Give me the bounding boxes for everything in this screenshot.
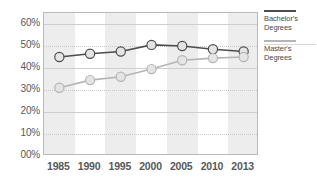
- series-layer: [44, 13, 258, 155]
- legend: Bachelor'sDegreesMaster'sDegrees: [264, 10, 316, 70]
- chart-container: 00%10%20%30%40%50%60% 198519901995200020…: [0, 0, 317, 187]
- y-axis-tick-label: 10%: [6, 128, 40, 138]
- data-point-marker: [85, 49, 94, 58]
- data-point-marker: [147, 65, 156, 74]
- legend-divider: [264, 44, 316, 45]
- y-axis: 00%10%20%30%40%50%60%: [4, 0, 40, 187]
- data-point-marker: [116, 72, 125, 81]
- data-point-marker: [55, 52, 64, 61]
- x-axis-tick-label: 2013: [223, 160, 263, 172]
- legend-label: Degrees: [264, 24, 316, 33]
- legend-label: Degrees: [264, 54, 316, 63]
- y-axis-tick-label: 50%: [6, 40, 40, 50]
- y-axis-tick-label: 00%: [6, 150, 40, 160]
- data-point-marker: [239, 52, 248, 61]
- legend-swatch: [264, 10, 296, 12]
- data-point-marker: [116, 47, 125, 56]
- plot-area: [43, 12, 258, 155]
- data-point-marker: [85, 76, 94, 85]
- y-axis-tick-label: 30%: [6, 84, 40, 94]
- y-axis-tick-label: 40%: [6, 62, 40, 72]
- legend-swatch: [264, 40, 296, 42]
- data-point-marker: [178, 56, 187, 65]
- data-point-marker: [178, 41, 187, 50]
- data-point-marker: [55, 83, 64, 92]
- data-point-marker: [208, 54, 217, 63]
- data-point-marker: [147, 40, 156, 49]
- y-axis-tick-label: 60%: [6, 18, 40, 28]
- legend-item[interactable]: Bachelor'sDegrees: [264, 10, 316, 32]
- data-point-marker: [208, 45, 217, 54]
- y-axis-tick-label: 20%: [6, 106, 40, 116]
- x-axis: 1985199019952000200520102013: [43, 160, 258, 176]
